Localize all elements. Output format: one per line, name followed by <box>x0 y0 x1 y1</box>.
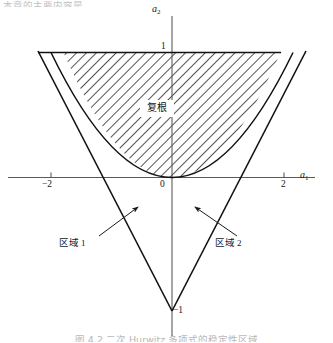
region-1-leader-arrow <box>99 207 138 236</box>
figure-container: 本章的主要内容是 a2 a <box>0 0 333 343</box>
figure-caption: 图 4.2 二次 Hurwitz 多项式的稳定性区域 <box>0 332 333 342</box>
y-axis-label: a2 <box>152 4 161 16</box>
region-1-label-number: 1 <box>79 238 85 248</box>
x-tick-label-2: 2 <box>281 180 286 190</box>
region-1-label-text: 区域 <box>59 237 79 248</box>
region-2-leader-arrow <box>195 207 237 236</box>
y-tick-label-1: 1 <box>161 42 166 52</box>
x-axis-label-subscript: 1 <box>305 174 309 182</box>
x-tick-label-minus-2: −2 <box>42 180 52 190</box>
plot-canvas <box>0 0 333 343</box>
y-tick-label-minus-1: −1 <box>173 306 183 316</box>
x-axis-label: a1 <box>300 170 309 182</box>
origin-label: 0 <box>160 180 165 190</box>
region-2-label-number: 2 <box>235 238 241 248</box>
region-1-label: 区域1 <box>59 238 86 248</box>
complex-roots-label: 复根 <box>140 100 174 117</box>
region-2-label-text: 区域 <box>215 237 235 248</box>
y-axis-label-subscript: 2 <box>157 8 161 16</box>
region-2-label: 区域2 <box>215 238 242 248</box>
